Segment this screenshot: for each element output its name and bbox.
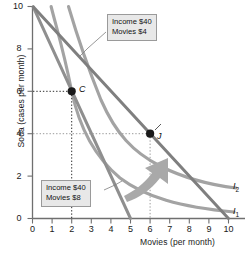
x-tick-label-0: 0	[26, 224, 40, 234]
y-tick-label-2: 2	[12, 171, 26, 181]
y-tick-label-8: 8	[12, 43, 26, 53]
point-label-c: C	[79, 84, 86, 94]
y-axis-ticks	[28, 7, 33, 219]
x-tick-label-4: 4	[104, 224, 118, 234]
y-tick-label-6: 6	[12, 86, 26, 96]
y-axis-title: Soda (cases per month)	[16, 42, 26, 160]
data-point-j	[146, 130, 154, 138]
point-label-j: J	[157, 131, 162, 141]
callout-income-40-movies-8: Income $40 Movies $8	[41, 180, 91, 207]
callout-top-line1: Income $40	[112, 17, 152, 27]
curve-label-i1-sub: 1	[236, 211, 240, 218]
callout-bottom-line2: Movies $8	[46, 193, 86, 203]
x-tick-label-9: 9	[202, 224, 216, 234]
curve-label-i1: I1	[233, 206, 239, 218]
x-tick-label-7: 7	[163, 224, 177, 234]
x-tick-label-5: 5	[124, 224, 138, 234]
x-tick-label-1: 1	[45, 224, 59, 234]
x-tick-label-6: 6	[143, 224, 157, 234]
y-tick-label-0: 0	[12, 213, 26, 223]
x-axis-title: Movies (per month)	[140, 237, 215, 247]
y-tick-label-10: 10	[8, 1, 28, 11]
y-tick-label-4: 4	[12, 128, 26, 138]
callout-top-line2: Movies $4	[112, 27, 152, 37]
indifference-curve-figure: Soda (cases per month) Movies (per month…	[0, 0, 252, 253]
data-point-c	[68, 87, 76, 95]
x-tick-label-8: 8	[182, 224, 196, 234]
callout-income-40-movies-4: Income $40 Movies $4	[107, 14, 157, 41]
callout-bottom-line1: Income $40	[46, 183, 86, 193]
curve-label-i2-sub: 2	[236, 186, 240, 193]
leader-line-top-callout	[80, 32, 106, 56]
shift-arrow	[124, 158, 168, 202]
x-tick-label-2: 2	[65, 224, 79, 234]
label-j-tick	[155, 124, 161, 130]
x-tick-label-3: 3	[84, 224, 98, 234]
x-tick-label-10: 10	[222, 224, 236, 234]
curve-label-i2: I2	[233, 181, 239, 193]
